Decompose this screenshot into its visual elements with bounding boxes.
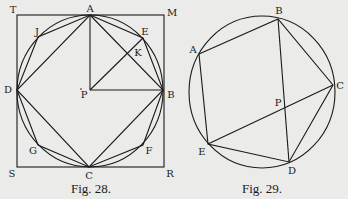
label-M: M: [167, 8, 177, 18]
label-B-fig29: B: [275, 6, 282, 16]
caption-fig-28: Fig. 28.: [71, 181, 111, 197]
label-B: B: [167, 90, 174, 100]
diagonal-BD: [278, 19, 289, 162]
label-S: S: [9, 169, 16, 179]
label-E: E: [141, 27, 148, 37]
diagram-canvas: T A M J E K D P B G F S C R Fig. 28. A B…: [0, 0, 348, 199]
label-P: P: [81, 90, 88, 100]
label-E-fig29: E: [198, 147, 205, 157]
inscribed-pentagon: [199, 19, 333, 162]
label-P-fig29: P: [275, 98, 282, 108]
fig28-drawing: [17, 15, 164, 167]
fig29-drawing: [189, 16, 335, 168]
label-D-fig29: D: [288, 166, 296, 176]
label-R: R: [166, 169, 174, 179]
label-J: J: [35, 27, 39, 37]
label-A-fig29: A: [189, 45, 196, 55]
label-C: C: [85, 171, 93, 181]
label-G: G: [29, 146, 37, 156]
radius-PE: [90, 38, 143, 90]
caption-fig-29: Fig. 29.: [242, 181, 282, 197]
label-D: D: [4, 85, 12, 95]
label-F: F: [146, 146, 153, 156]
label-K: K: [134, 48, 141, 58]
label-C-fig29: C: [336, 81, 344, 91]
label-A: A: [86, 4, 93, 14]
label-T: T: [10, 5, 17, 15]
diagonal-CE: [208, 85, 333, 144]
